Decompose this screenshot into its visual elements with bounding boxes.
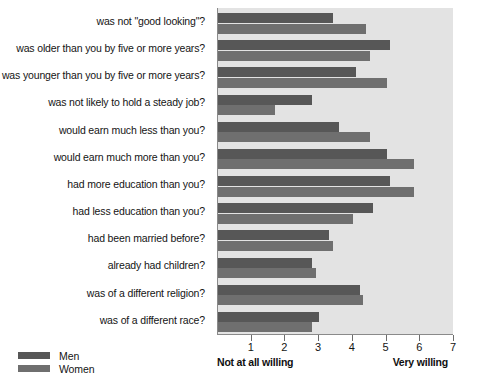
bar-women xyxy=(218,24,366,34)
category-label: had less education than you? xyxy=(0,198,212,225)
bar-men xyxy=(218,67,356,77)
legend-item: Men xyxy=(18,349,138,362)
bar-men xyxy=(218,312,319,322)
x-axis-tick-label: 5 xyxy=(376,341,396,353)
chart-legend: MenWomen xyxy=(18,349,138,375)
bar-men xyxy=(218,95,312,105)
bar-group xyxy=(218,225,453,252)
x-axis-tick-labels: 1234567 xyxy=(217,341,453,355)
axis-low-label: Not at all willing xyxy=(217,356,293,368)
category-label: had more education than you? xyxy=(0,171,212,198)
bar-group xyxy=(218,280,453,307)
bar-group xyxy=(218,171,453,198)
bar-men xyxy=(218,258,312,268)
bar-women xyxy=(218,241,333,251)
category-label: would earn much more than you? xyxy=(0,144,212,171)
legend-item: Women xyxy=(18,362,138,375)
category-labels-axis: was not "good looking"?was older than yo… xyxy=(0,8,212,334)
bar-women xyxy=(218,187,414,197)
bar-group xyxy=(218,253,453,280)
bar-men xyxy=(218,122,339,132)
bar-women xyxy=(218,105,275,115)
bar-group xyxy=(218,144,453,171)
legend-label: Women xyxy=(59,363,95,375)
bar-chart: was not "good looking"?was older than yo… xyxy=(0,0,485,383)
bar-group xyxy=(218,62,453,89)
axis-endpoint-labels: Not at all willing Very willing xyxy=(217,356,465,372)
x-axis-tick-label: 6 xyxy=(409,341,429,353)
bar-women xyxy=(218,51,370,61)
legend-swatch-men xyxy=(18,352,50,359)
bar-women xyxy=(218,295,363,305)
bar-women xyxy=(218,132,370,142)
x-axis-line xyxy=(217,334,453,341)
x-axis-tick-label: 1 xyxy=(241,341,261,353)
bar-women xyxy=(218,322,312,332)
bar-men xyxy=(218,230,329,240)
bar-group xyxy=(218,198,453,225)
category-label: had been married before? xyxy=(0,225,212,252)
bar-men xyxy=(218,149,387,159)
x-axis-tick-label: 7 xyxy=(443,341,463,353)
bar-group xyxy=(218,117,453,144)
category-label: was not likely to hold a steady job? xyxy=(0,90,212,117)
bar-women xyxy=(218,78,387,88)
bar-men xyxy=(218,285,360,295)
category-label: was not "good looking"? xyxy=(0,8,212,35)
axis-high-label: Very willing xyxy=(393,356,448,368)
category-label: would earn much less than you? xyxy=(0,117,212,144)
bar-group xyxy=(218,307,453,334)
legend-label: Men xyxy=(59,350,79,362)
bar-group xyxy=(218,8,453,35)
category-label: was of a different religion? xyxy=(0,280,212,307)
legend-swatch-women xyxy=(18,365,50,372)
bar-men xyxy=(218,203,373,213)
bar-men xyxy=(218,40,390,50)
category-label: was younger than you by five or more yea… xyxy=(0,62,212,89)
bar-men xyxy=(218,176,390,186)
bar-group xyxy=(218,35,453,62)
plot-area xyxy=(217,8,453,334)
bar-group xyxy=(218,90,453,117)
x-axis-tick-label: 3 xyxy=(308,341,328,353)
bar-women xyxy=(218,159,414,169)
category-label: was of a different race? xyxy=(0,307,212,334)
category-label: was older than you by five or more years… xyxy=(0,35,212,62)
bar-women xyxy=(218,214,353,224)
bar-men xyxy=(218,13,333,23)
category-label: already had children? xyxy=(0,253,212,280)
x-axis-tick-label: 2 xyxy=(274,341,294,353)
x-axis-tick-label: 4 xyxy=(342,341,362,353)
bar-women xyxy=(218,268,316,278)
